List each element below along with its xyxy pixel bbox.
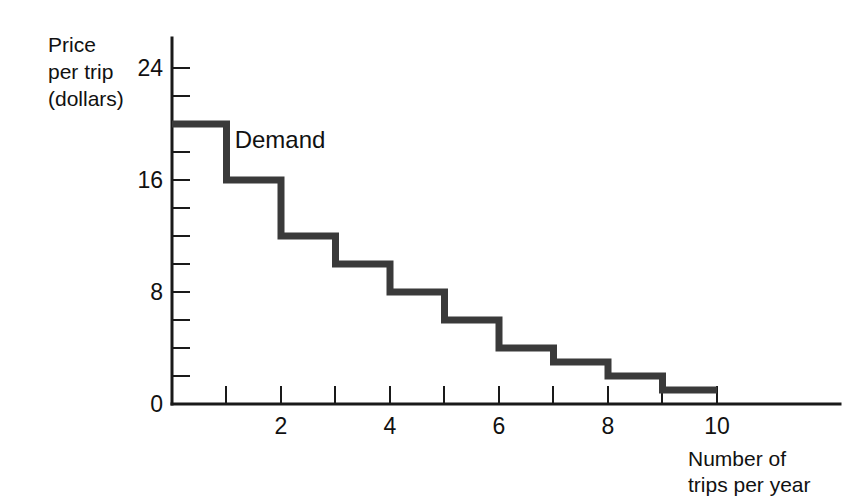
y-axis-ticks xyxy=(172,68,190,376)
x-axis-title-line-2: trips per year xyxy=(688,473,811,496)
x-tick-label-8: 8 xyxy=(602,413,615,439)
demand-curve-figure: 24 16 8 0 2 4 6 8 10 Price per trip (dol… xyxy=(0,0,854,503)
y-axis-title: Price per trip (dollars) xyxy=(48,33,124,110)
x-tick-label-4: 4 xyxy=(384,413,397,439)
y-tick-label-16: 16 xyxy=(137,167,163,193)
x-tick-label-10: 10 xyxy=(704,413,730,439)
y-tick-label-24: 24 xyxy=(137,55,163,81)
y-tick-label-8: 8 xyxy=(150,279,163,305)
x-axis-title-line-1: Number of xyxy=(688,447,786,470)
demand-chart: 24 16 8 0 2 4 6 8 10 Price per trip (dol… xyxy=(0,0,854,503)
x-tick-label-2: 2 xyxy=(275,413,288,439)
y-axis-title-line-2: per trip xyxy=(48,60,113,83)
demand-curve xyxy=(172,124,717,390)
x-axis-title: Number of trips per year xyxy=(688,447,811,496)
y-axis-title-line-1: Price xyxy=(48,33,96,56)
y-tick-label-0: 0 xyxy=(150,391,163,417)
demand-curve-label: Demand xyxy=(235,126,326,153)
x-tick-label-6: 6 xyxy=(493,413,506,439)
x-axis-ticks xyxy=(226,386,717,404)
y-axis-title-line-3: (dollars) xyxy=(48,87,124,110)
